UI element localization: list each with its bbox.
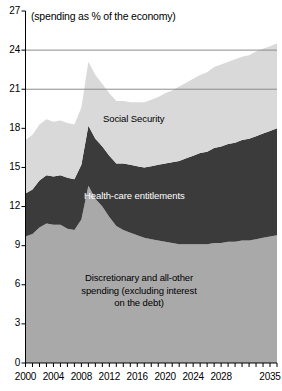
y-axis-tick-label: 12 [0, 200, 20, 211]
y-axis-tick-label: 18 [0, 122, 20, 133]
series-label-social-security: Social Security [103, 113, 164, 124]
series-label-discretionary: Discretionary and all-other spending (ex… [49, 272, 229, 310]
y-axis-tick-label: 0 [0, 357, 20, 368]
y-axis-tick-label: 3 [0, 317, 20, 328]
y-axis-tick-label: 27 [0, 5, 20, 16]
y-axis-tick-label: 21 [0, 83, 20, 94]
stacked-area-chart: (spending as % of the economy) Social Se… [0, 0, 282, 391]
y-axis-tick-label: 15 [0, 161, 20, 172]
y-axis-tick-label: 24 [0, 44, 20, 55]
y-axis-tick-label: 9 [0, 239, 20, 250]
y-axis-tick-label: 6 [0, 278, 20, 289]
discretionary-label-line-2: spending (excluding interest [49, 285, 229, 298]
chart-subtitle: (spending as % of the economy) [31, 10, 176, 22]
x-axis-tick-label: 2028 [204, 371, 238, 382]
discretionary-label-line-1: Discretionary and all-other [49, 272, 229, 285]
x-axis-tick-label: 2035 [253, 371, 282, 382]
series-label-health-care: Health-care entitlements [84, 190, 185, 201]
discretionary-label-line-3: on the debt) [49, 297, 229, 310]
